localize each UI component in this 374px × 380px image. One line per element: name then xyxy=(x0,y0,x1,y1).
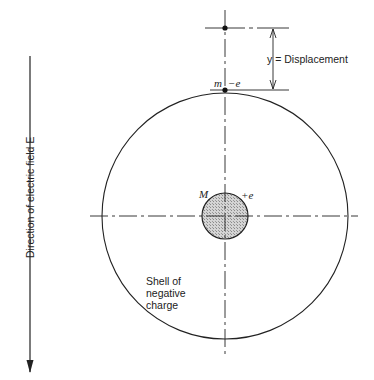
shell-label-line-3: charge xyxy=(146,299,178,311)
electron-charge-label: −e xyxy=(228,77,240,89)
displacement-label: y = Displacement xyxy=(267,53,348,65)
shell-label-line-2: negative xyxy=(146,287,186,299)
electron-mass-label: m xyxy=(214,77,222,89)
displaced-electron-point xyxy=(222,25,227,30)
nucleus-mass-label: M xyxy=(198,188,209,200)
nucleus-charge-label: +e xyxy=(241,189,253,201)
shell-label-line-1: Shell of xyxy=(146,275,181,287)
arrowhead-icon xyxy=(27,360,34,373)
electron-point xyxy=(222,87,227,92)
field-direction-label: Direction of electric field E xyxy=(24,137,36,258)
atom-diagram: Direction of electric field E y = Displa… xyxy=(0,0,374,380)
